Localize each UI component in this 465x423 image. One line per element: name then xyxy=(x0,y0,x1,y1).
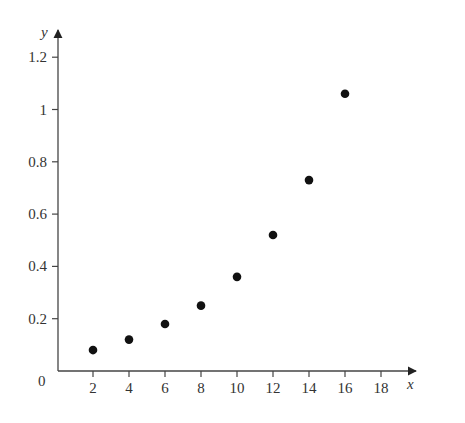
data-point xyxy=(269,231,278,240)
x-tick-label: 4 xyxy=(125,380,133,396)
x-tick-label: 16 xyxy=(338,380,354,396)
origin-label: 0 xyxy=(38,373,46,389)
data-point xyxy=(341,90,350,99)
data-point xyxy=(197,301,206,310)
axes: yx0 xyxy=(38,24,416,392)
data-point xyxy=(89,346,98,355)
x-tick-label: 8 xyxy=(197,380,205,396)
x-tick-label: 6 xyxy=(161,380,169,396)
x-tick-label: 12 xyxy=(266,380,281,396)
data-point xyxy=(161,320,170,329)
data-point xyxy=(233,273,242,282)
y-tick-label: 0.6 xyxy=(28,206,47,222)
data-point xyxy=(305,176,314,185)
y-tick-label: 1 xyxy=(40,102,48,118)
x-tick-label: 2 xyxy=(89,380,97,396)
y-tick-label: 0.4 xyxy=(28,258,47,274)
x-tick-label: 18 xyxy=(374,380,389,396)
y-axis-label: y xyxy=(39,24,48,40)
x-tick-label: 14 xyxy=(302,380,318,396)
x-axis-label: x xyxy=(406,376,414,392)
data-point xyxy=(125,335,134,344)
y-tick-label: 1.2 xyxy=(28,49,47,65)
data-points xyxy=(89,90,350,355)
y-tick-label: 0.2 xyxy=(28,311,47,327)
ticks: 246810121416180.20.40.60.811.2 xyxy=(28,49,388,396)
scatter-chart: yx0 246810121416180.20.40.60.811.2 xyxy=(0,0,465,423)
y-tick-label: 0.8 xyxy=(28,154,47,170)
x-tick-label: 10 xyxy=(230,380,245,396)
